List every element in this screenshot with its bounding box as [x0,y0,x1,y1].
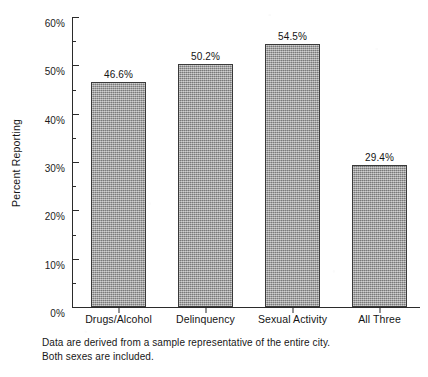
x-axis-category-label: Sexual Activity [258,313,327,325]
y-tick-major [72,259,79,260]
x-axis-category-label: Drugs/Alcohol [85,313,152,325]
x-axis-category-label: All Three [358,313,401,325]
bar-value-label: 50.2% [191,51,220,62]
bar: 50.2% [178,64,233,307]
caption-line-1: Data are derived from a sample represent… [42,336,412,350]
y-tick-major [72,114,79,115]
y-tick-major [72,17,79,18]
y-tick-major [72,307,79,308]
bar-value-label: 46.6% [104,69,133,80]
y-tick-minor [72,90,76,91]
y-tick-minor [72,186,76,187]
x-axis-line [72,307,420,308]
plot-area: 0%10%20%30%40%50%60% 46.6%50.2%54.5%29.4… [72,18,420,308]
y-tick-major [72,162,79,163]
x-axis-category-label: Delinquency [176,313,235,325]
y-tick-minor [72,235,76,236]
y-tick-minor [72,283,76,284]
bar-chart-figure: 0%10%20%30%40%50%60% 46.6%50.2%54.5%29.4… [0,0,428,377]
bar: 46.6% [91,82,146,307]
y-tick-minor [72,138,76,139]
bar-value-label: 29.4% [365,152,394,163]
y-axis-title: Percent Reporting [10,119,22,207]
y-tick-minor [72,41,76,42]
bar-value-label: 54.5% [278,31,307,42]
caption-line-2: Both sexes are included. [42,350,412,364]
y-tick-major [72,210,79,211]
y-axis-line [72,18,73,308]
bar: 54.5% [265,44,320,307]
y-tick-major [72,65,79,66]
figure-caption: Data are derived from a sample represent… [42,336,412,364]
bar: 29.4% [352,165,407,307]
